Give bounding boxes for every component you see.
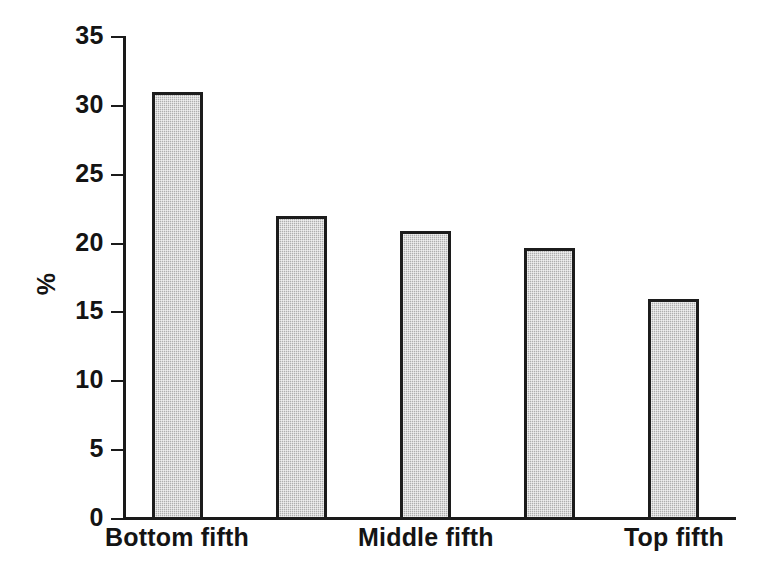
y-axis-tick-label-wrap: 30 [44,92,104,118]
bar-chart-plot: % 35302520151050 Bottom fifthMiddle fift… [0,0,769,585]
chart-page: % 35302520151050 Bottom fifthMiddle fift… [0,0,769,585]
y-axis-tick-mark [111,380,124,382]
y-axis-tick-mark [111,449,124,451]
y-axis-tick-label: 5 [56,436,104,461]
y-axis-tick-label: 15 [56,298,104,323]
y-axis-tick-label: 0 [56,505,104,530]
y-axis-tick-mark [111,105,124,107]
y-axis-tick-label-wrap: 35 [44,23,104,49]
y-axis-tick-label: 10 [56,367,104,392]
y-axis-tick-label-wrap: 10 [44,367,104,393]
bar [648,299,699,520]
y-axis-tick-label-wrap: 15 [44,298,104,324]
y-axis-tick-label: 25 [56,161,104,186]
bar [276,216,327,520]
y-axis-tick-label-wrap: 5 [44,436,104,462]
y-axis-tick-label: 20 [56,230,104,255]
y-axis-tick-mark [111,518,124,520]
x-axis-label: Bottom fifth [105,525,249,550]
bar [152,92,203,520]
y-axis-tick-label-wrap: 20 [44,230,104,256]
y-axis-tick-label: 35 [56,23,104,48]
y-axis-tick-mark [111,243,124,245]
bar [400,231,451,520]
y-axis-tick-label-wrap: 0 [44,505,104,531]
y-axis-tick-label: 30 [56,92,104,117]
y-axis-tick-mark [111,36,124,38]
bar [524,248,575,520]
x-axis-label: Top fifth [624,525,724,550]
y-axis-line [123,36,126,520]
y-axis-tick-mark [111,311,124,313]
y-axis-tick-label-wrap: 25 [44,161,104,187]
x-axis-label: Middle fifth [358,525,494,550]
y-axis-tick-mark [111,174,124,176]
